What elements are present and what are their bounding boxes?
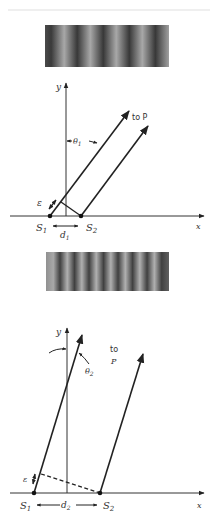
epsilon-label-1: ε [37,198,42,208]
x-axis-label-1: x [196,222,201,231]
s1-label-2: S1 [20,500,31,513]
ray-s2-2 [100,354,143,493]
s2-label-2: S2 [103,500,115,513]
panel-2: ε θ2 d2 S1 S2 x y to P [10,252,204,513]
x-axis-label-2: x [197,501,202,510]
to-p-label-1: to P [132,113,148,122]
separation-label-1: d1 [60,230,70,241]
theta-label-1: θ1 [73,137,82,147]
ray-s1-1 [50,111,129,216]
epsilon-label-2: ε [23,475,27,484]
perpendicular-1 [61,202,81,216]
p-label-2: P [110,357,117,366]
y-axis-label-1: y [55,82,62,92]
theta-arrow-right-2 [79,353,89,364]
interference-diagram: ε θ1 d1 S1 S2 x y to P ε θ2 [0,0,214,523]
ray-s2-1 [81,126,148,216]
y-axis-label-2: y [55,327,62,337]
source-s1-2 [32,491,37,496]
theta-arrow-left-2 [49,349,66,353]
theta-arrow-right-1 [89,141,97,143]
epsilon-arrow-2 [33,474,35,484]
fringe-pattern-1 [45,25,169,67]
perpendicular-2 [41,474,100,493]
source-s2-2 [98,491,103,496]
s1-label-1: S1 [36,222,47,235]
panel-1: ε θ1 d1 S1 S2 x y to P [10,25,204,241]
source-s2-1 [79,214,84,219]
theta-label-2: θ2 [85,367,94,377]
fringe-pattern-2 [46,252,169,291]
epsilon-arrow-1 [49,200,56,209]
to-label-2: to [110,345,118,354]
ray-s1-2 [34,335,82,493]
s2-label-1: S2 [86,222,98,235]
source-s1-1 [48,214,53,219]
